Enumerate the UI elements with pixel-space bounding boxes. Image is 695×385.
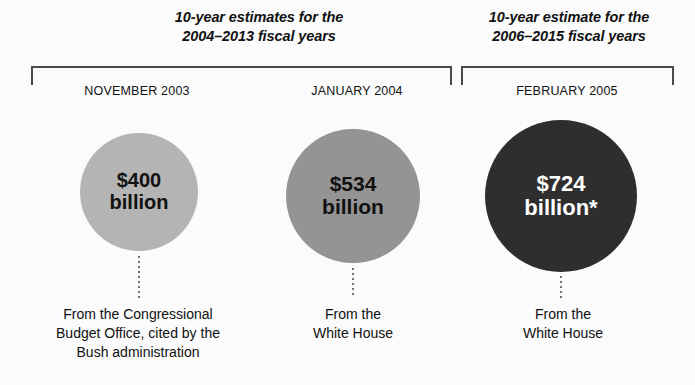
cost-estimate-infographic: 10-year estimates for the 2004–2013 fisc… bbox=[0, 0, 695, 385]
connector-line-2 bbox=[352, 268, 354, 298]
source-caption-2: From the White House bbox=[262, 305, 444, 343]
date-label-3: FEBRUARY 2005 bbox=[472, 84, 662, 98]
date-label-2: JANUARY 2004 bbox=[262, 84, 452, 98]
estimate-unit-3: billion* bbox=[524, 196, 597, 220]
estimate-amount-1: $400 bbox=[117, 170, 162, 192]
group-heading-right: 10-year estimate for the 2006–2015 fisca… bbox=[448, 8, 690, 46]
group-heading-left-line1: 10-year estimates for the bbox=[175, 9, 343, 25]
connector-line-3 bbox=[560, 276, 562, 298]
bracket-left bbox=[31, 66, 452, 85]
group-heading-right-line2: 2006–2015 fiscal years bbox=[448, 27, 690, 46]
date-label-1: NOVEMBER 2003 bbox=[42, 84, 232, 98]
estimate-bubble-3: $724 billion* bbox=[485, 120, 637, 272]
estimate-unit-1: billion bbox=[110, 192, 169, 214]
source-caption-3: From the White House bbox=[472, 305, 654, 343]
estimate-amount-3: $724 bbox=[537, 172, 586, 196]
group-heading-left: 10-year estimates for the 2004–2013 fisc… bbox=[128, 8, 390, 46]
source-caption-1-line3: Bush administration bbox=[22, 343, 254, 362]
bracket-right bbox=[461, 66, 674, 85]
source-caption-1-line1: From the Congressional bbox=[22, 305, 254, 324]
group-heading-left-line2: 2004–2013 fiscal years bbox=[128, 27, 390, 46]
connector-line-1 bbox=[138, 256, 140, 298]
estimate-bubble-2: $534 billion bbox=[286, 129, 420, 263]
estimate-bubble-1: $400 billion bbox=[80, 133, 198, 251]
source-caption-1-line2: Budget Office, cited by the bbox=[22, 324, 254, 343]
estimate-unit-2: billion bbox=[322, 196, 384, 219]
source-caption-2-line1: From the bbox=[262, 305, 444, 324]
source-caption-3-line2: White House bbox=[472, 324, 654, 343]
estimate-amount-2: $534 bbox=[330, 173, 377, 196]
source-caption-1: From the Congressional Budget Office, ci… bbox=[22, 305, 254, 362]
group-heading-right-line1: 10-year estimate for the bbox=[489, 9, 649, 25]
source-caption-3-line1: From the bbox=[472, 305, 654, 324]
source-caption-2-line2: White House bbox=[262, 324, 444, 343]
